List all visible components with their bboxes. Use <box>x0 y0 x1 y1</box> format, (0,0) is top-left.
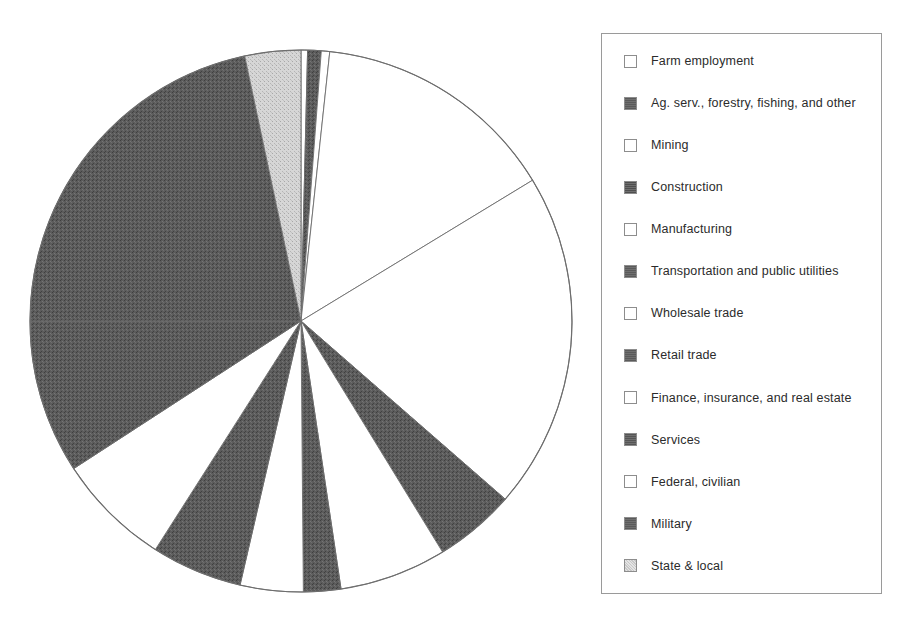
legend-item[interactable]: Ag. serv., forestry, fishing, and other <box>602 83 881 123</box>
legend-item-label: Retail trade <box>651 348 717 362</box>
legend-item-label: Construction <box>651 180 723 194</box>
legend-item[interactable]: Military <box>602 504 881 544</box>
legend-item-label: Mining <box>651 138 689 152</box>
legend-swatch-icon <box>624 265 637 278</box>
legend-swatch-icon <box>624 433 637 446</box>
legend-item-label: State & local <box>651 559 723 573</box>
legend-item[interactable]: Farm employment <box>602 41 881 81</box>
pie-chart <box>0 0 592 628</box>
legend-swatch-icon <box>624 139 637 152</box>
legend-item[interactable]: Federal, civilian <box>602 462 881 502</box>
legend-item-label: Ag. serv., forestry, fishing, and other <box>651 96 856 110</box>
legend-item-label: Farm employment <box>651 54 754 68</box>
legend-item-label: Federal, civilian <box>651 475 740 489</box>
pie-chart-area <box>0 0 592 628</box>
legend-swatch-icon <box>624 391 637 404</box>
legend-item[interactable]: Services <box>602 420 881 460</box>
legend-swatch-icon <box>624 223 637 236</box>
legend-item-label: Transportation and public utilities <box>651 264 839 278</box>
legend-swatch-icon <box>624 475 637 488</box>
legend-item[interactable]: State & local <box>602 546 881 586</box>
legend-swatch-icon <box>624 307 637 320</box>
legend-swatch-icon <box>624 55 637 68</box>
legend-item[interactable]: Finance, insurance, and real estate <box>602 378 881 418</box>
legend-item[interactable]: Manufacturing <box>602 209 881 249</box>
legend-item-label: Wholesale trade <box>651 306 744 320</box>
pie-slices-group <box>30 50 572 592</box>
legend-item-label: Finance, insurance, and real estate <box>651 391 852 405</box>
legend-swatch-icon <box>624 97 637 110</box>
legend-item[interactable]: Construction <box>602 167 881 207</box>
legend-item[interactable]: Transportation and public utilities <box>602 251 881 291</box>
legend-swatch-icon <box>624 517 637 530</box>
legend-item-label: Services <box>651 433 700 447</box>
legend-swatch-icon <box>624 181 637 194</box>
legend-swatch-icon <box>624 559 637 572</box>
legend-item-list: Farm employmentAg. serv., forestry, fish… <box>602 34 881 593</box>
legend-item-label: Manufacturing <box>651 222 732 236</box>
legend-swatch-icon <box>624 349 637 362</box>
legend-item[interactable]: Retail trade <box>602 335 881 375</box>
legend-item-label: Military <box>651 517 692 531</box>
chart-legend: Farm employmentAg. serv., forestry, fish… <box>601 33 882 594</box>
legend-item[interactable]: Mining <box>602 125 881 165</box>
legend-item[interactable]: Wholesale trade <box>602 293 881 333</box>
